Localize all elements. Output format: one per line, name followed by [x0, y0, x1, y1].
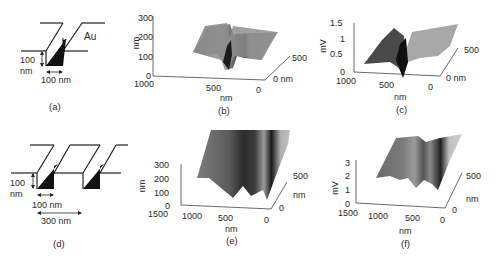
- depth-unit-label: nm: [10, 189, 23, 199]
- caption-f: (f): [401, 238, 410, 249]
- y-tick: 500: [464, 45, 479, 55]
- z-tick: 300: [154, 160, 169, 170]
- depth-label: 100: [10, 178, 25, 188]
- y-axis-label: nm: [466, 194, 479, 204]
- z-tick: 0.5: [330, 49, 343, 59]
- z-tick: 200: [154, 174, 169, 184]
- depth-unit-label: nm: [20, 66, 33, 76]
- x-tick: 1500: [338, 208, 358, 218]
- z-axis-label: mV: [318, 39, 328, 53]
- x-tick: 500: [405, 213, 420, 223]
- y-tick: 0: [279, 203, 284, 213]
- z-tick: 300: [138, 13, 153, 23]
- caption-d: (d): [53, 238, 65, 249]
- x-axis-label: nm: [399, 226, 412, 236]
- y-tick: 0 nm: [446, 73, 466, 83]
- z-tick: 1: [340, 34, 345, 44]
- x-tick: 1000: [336, 76, 356, 86]
- x-tick: 0: [264, 215, 269, 225]
- x-axis-label: nm: [225, 224, 238, 234]
- z-tick: 200: [138, 32, 153, 42]
- x-tick: 0: [428, 82, 433, 92]
- period-label: 300 nm: [41, 216, 71, 226]
- y-tick: 0 nm: [273, 74, 293, 84]
- z-axis-label: mV: [330, 181, 340, 195]
- caption-e: (e): [226, 235, 238, 246]
- x-axis-label: nm: [220, 93, 233, 103]
- caption-a: (a): [49, 101, 61, 112]
- y-tick: 0: [452, 205, 457, 215]
- z-tick: 3: [345, 158, 350, 168]
- z-tick: 2: [345, 171, 350, 181]
- caption-b: (b): [218, 105, 230, 116]
- x-tick: 1000: [368, 211, 388, 221]
- x-tick: 500: [379, 80, 394, 90]
- z-tick: 1: [345, 185, 350, 195]
- x-tick: 1000: [134, 79, 154, 89]
- x-tick: 500: [206, 83, 221, 93]
- x-tick: 0: [256, 85, 261, 95]
- z-tick: 100: [138, 52, 153, 62]
- x-tick: 0: [440, 215, 445, 225]
- x-tick: 500: [218, 213, 233, 223]
- material-label: Au: [84, 32, 96, 42]
- x-tick: 1500: [148, 209, 168, 219]
- single-groove-schematic: [0, 0, 130, 100]
- depth-label: 100: [20, 55, 35, 65]
- z-tick: 1.5: [330, 18, 343, 28]
- caption-c: (c): [396, 104, 407, 115]
- z-axis-label: nm: [137, 180, 147, 193]
- x-tick: 1000: [182, 211, 202, 221]
- y-tick: 500: [466, 171, 481, 181]
- width-label: 100 nm: [32, 200, 62, 210]
- width-label: 100 nm: [41, 75, 71, 85]
- z-tick: 100: [154, 188, 169, 198]
- x-axis-label: nm: [394, 92, 407, 102]
